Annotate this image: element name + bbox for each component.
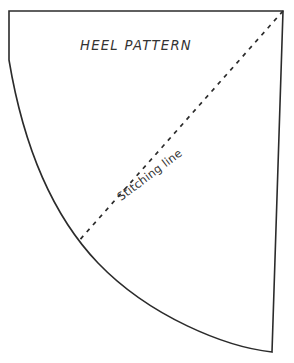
pattern-drawing-canvas: HEEL PATTERN Stitching line [0,0,294,363]
page-title: HEEL PATTERN [80,38,192,53]
pattern-sheet: HEEL PATTERN Stitching line [0,0,294,363]
stitching-line-label: Stitching line [114,146,184,204]
